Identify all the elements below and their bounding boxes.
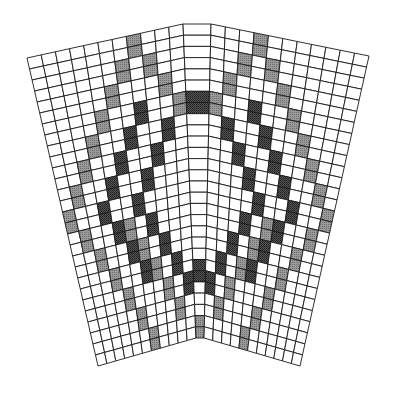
chart-cell [184,46,211,57]
chart-cell [150,337,160,351]
chart-cell [213,329,222,343]
chart-cell [188,147,208,158]
chart-cell [195,304,205,315]
chart-cell [185,69,210,80]
chart-cell [189,159,208,170]
chart-cell [187,114,209,125]
chart-cell [192,237,207,248]
chart-cell [193,260,206,271]
chart-grid [27,24,369,366]
left-panel [27,24,196,366]
chart-cell [222,332,232,346]
chart-cell [190,203,207,214]
chart-cell [195,316,204,327]
chart-cell [194,293,205,304]
chart-cell [184,58,210,69]
chart-cell [230,335,240,349]
chart-cell [187,125,209,136]
knitting-chart [0,0,393,404]
chart-cell [189,170,208,181]
chart-cell [191,226,206,237]
chart-cell [192,248,206,259]
chart-cell [184,35,211,46]
chart-cell [186,327,196,341]
chart-cell [185,80,210,91]
right-panel [204,24,369,366]
chart-cell [188,136,209,147]
chart-cell [191,215,207,226]
chart-cell [159,335,169,349]
chart-cell [204,327,213,341]
chart-cell [177,329,187,343]
chart-cell [190,192,207,203]
chart-cell [190,181,208,192]
chart-cell [186,103,209,114]
chart-cell [186,91,210,102]
chart-cell [168,332,178,346]
chart-cell [194,282,206,293]
chart-cell [193,271,205,282]
chart-cell [291,352,302,366]
chart-cell [183,24,211,35]
chart-cell [196,327,205,338]
